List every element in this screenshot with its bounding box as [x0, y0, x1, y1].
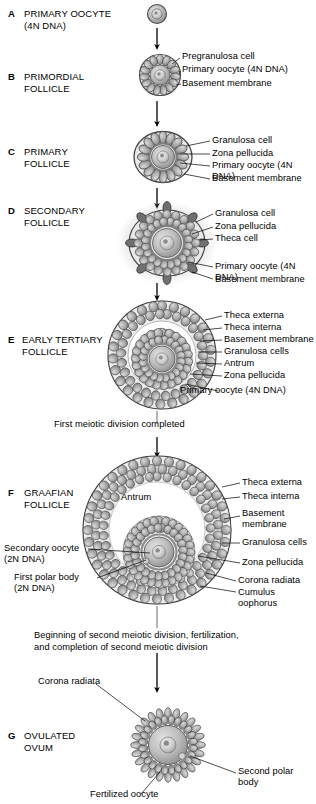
- callout-zona-pellucida-d: Zona pellucida: [215, 221, 276, 232]
- callout-pregranulosa-cell: Pregranulosa cell: [182, 51, 255, 62]
- leader-b-basement: [176, 84, 181, 85]
- callout-theca-externa-e: Theca externa: [224, 310, 284, 321]
- leader-d-basement: [192, 272, 213, 279]
- callout-secondary-oocyte-f: Secondary oocyte (2N DNA): [4, 543, 79, 565]
- callout-theca-interna-f: Theca interna: [242, 491, 300, 502]
- leader-d-theca: [200, 239, 213, 240]
- stage-name-a: PRIMARY OOCYTE (4N DNA): [24, 8, 111, 31]
- leader-e-zona: [190, 374, 222, 376]
- folliculogenesis-figure: A PRIMARY OOCYTE (4N DNA) B PRIMORDIAL F…: [0, 0, 316, 804]
- stage-name-g: OVULATED OVUM: [24, 730, 75, 753]
- leader-c-granulosa: [186, 141, 210, 146]
- transition-second-meiotic-division: Beginning of second meiotic division, fe…: [34, 630, 239, 653]
- callout-granulosa-cell-c: Granulosa cell: [212, 135, 272, 146]
- callout-theca-externa-f: Theca externa: [242, 477, 302, 488]
- stage-name-c: PRIMARY FOLLICLE: [24, 146, 70, 169]
- callout-granulosa-cells-f: Granulosa cells: [242, 537, 307, 548]
- leader-d-granulosa: [196, 214, 213, 222]
- leader-e-theca-interna: [203, 328, 222, 330]
- leader-b-pregranulosa: [172, 58, 180, 64]
- leader-g-corona: [96, 684, 145, 721]
- callout-basement-membrane-b: Basement membrane: [182, 78, 272, 89]
- callout-zona-pellucida-c: Zona pellucida: [212, 148, 273, 159]
- callout-basement-membrane-c: Basement membrane: [212, 173, 302, 184]
- leader-g-second-polar-body: [190, 756, 236, 773]
- leader-f-basement: [224, 516, 240, 519]
- stage-letter-d: D: [8, 205, 15, 216]
- callout-basement-membrane-f: Basement membrane: [242, 508, 287, 530]
- leader-e-antrum: [196, 363, 222, 364]
- leader-c-basement: [184, 174, 210, 179]
- stage-letter-b: B: [8, 71, 15, 82]
- stage-name-f: GRAAFIAN FOLLICLE: [24, 487, 73, 510]
- stage-name-d: SECONDARY FOLLICLE: [24, 205, 85, 228]
- callout-granulosa-cells-e: Granulosa cells: [224, 346, 289, 357]
- leader-d-oocyte: [188, 262, 213, 267]
- callout-corona-radiata-f: Corona radiata: [238, 575, 300, 586]
- leader-f-secondary-oocyte: [88, 549, 150, 553]
- stage-letter-a: A: [8, 8, 15, 19]
- leader-f-theca-interna: [222, 497, 240, 499]
- callout-theca-interna-e: Theca interna: [224, 322, 282, 333]
- leader-f-first-polar-body: [97, 560, 146, 578]
- callout-corona-radiata-g: Corona radiata: [38, 676, 100, 687]
- leader-b-oocyte: [179, 71, 180, 75]
- callout-cumulus-oophorus-f: Cumulus oophorus: [238, 587, 316, 609]
- callout-zona-pellucida-e: Zona pellucida: [224, 370, 285, 381]
- callout-second-polar-body-g: Second polar body: [238, 766, 316, 788]
- leader-d-zona: [192, 227, 213, 234]
- leader-e-basement: [200, 340, 222, 341]
- leader-e-theca-externa: [205, 316, 222, 320]
- callout-primary-oocyte-b: Primary oocyte (4N DNA): [182, 64, 288, 75]
- stage-letter-g: G: [8, 730, 16, 741]
- leader-c-oocyte: [180, 163, 210, 166]
- callout-basement-membrane-e: Basement membrane: [224, 334, 314, 345]
- callout-basement-membrane-d: Basement membrane: [215, 274, 305, 285]
- leader-f-cumulus: [200, 586, 236, 592]
- callout-fertilized-oocyte-g: Fertilized oocyte: [90, 789, 159, 800]
- stage-letter-f: F: [8, 487, 14, 498]
- transition-first-meiotic-division: First meiotic division completed: [54, 419, 185, 431]
- label-antrum-f: Antrum: [121, 492, 151, 502]
- callout-first-polar-body-f: First polar body (2N DNA): [14, 572, 79, 594]
- stage-name-e: EARLY TERTIARY FOLLICLE: [22, 334, 103, 357]
- stage-letter-c: C: [8, 146, 15, 157]
- leader-f-corona: [206, 573, 236, 581]
- leader-f-theca-externa: [222, 483, 240, 487]
- callout-zona-pellucida-f: Zona pellucida: [242, 557, 303, 568]
- callout-primary-oocyte-e: Primary oocyte (4N DNA): [180, 385, 286, 396]
- leader-f-zona: [198, 556, 240, 563]
- callout-antrum-e: Antrum: [224, 358, 254, 369]
- callout-theca-cell-d: Theca cell: [215, 233, 258, 244]
- stage-letter-e: E: [8, 334, 15, 345]
- stage-name-b: PRIMORDIAL FOLLICLE: [24, 71, 84, 94]
- callout-granulosa-cell-d: Granulosa cell: [215, 208, 275, 219]
